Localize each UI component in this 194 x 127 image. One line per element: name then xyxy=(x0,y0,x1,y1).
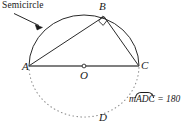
center-label-o: O xyxy=(80,70,88,81)
chord-segment-bc xyxy=(104,17,139,66)
semicircle-callout-label: Semicircle xyxy=(2,1,44,11)
arc-measure-equals: = xyxy=(157,94,163,104)
point-label-c: C xyxy=(141,60,148,71)
point-label-b: B xyxy=(99,1,106,12)
geometry-figure: Semicircle A B C O D mADC = 180 xyxy=(0,0,194,127)
arc-symbol-icon xyxy=(135,92,154,98)
point-label-d: D xyxy=(99,112,107,123)
point-label-a: A xyxy=(22,61,29,72)
arc-measure-value: 180 xyxy=(166,94,180,104)
arc-measure-annotation: mADC = 180 xyxy=(129,95,180,105)
upper-semicircle-arc xyxy=(29,15,139,66)
chord-segment-ab xyxy=(30,17,105,66)
arc-measure-expression: mADC xyxy=(129,95,155,105)
center-point-marker-o xyxy=(82,64,86,68)
diagram-canvas xyxy=(0,0,194,127)
callout-leader-line xyxy=(14,14,39,26)
